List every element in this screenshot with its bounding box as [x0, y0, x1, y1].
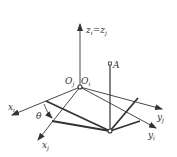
z-axis-label: zi=zj	[85, 25, 107, 37]
theta-label: θ	[36, 111, 42, 121]
theta-arc	[44, 104, 52, 118]
bottom-point	[108, 129, 112, 133]
y-j-label: yj	[156, 112, 164, 124]
y-j-axis	[80, 87, 162, 109]
y-i-label: yi	[147, 130, 155, 141]
proj-line-xi	[46, 101, 110, 131]
x-i-label: xi	[8, 102, 15, 113]
x-j-label: xj	[42, 140, 49, 152]
origin-j-label: Oj	[65, 76, 74, 88]
point-a-label: A	[112, 60, 120, 70]
frame-diagram: zi=zj Oj Oi A xi xj yj yi θ	[0, 0, 177, 157]
point-a-marker	[109, 62, 112, 65]
origin-i-label: Oi	[81, 76, 90, 87]
